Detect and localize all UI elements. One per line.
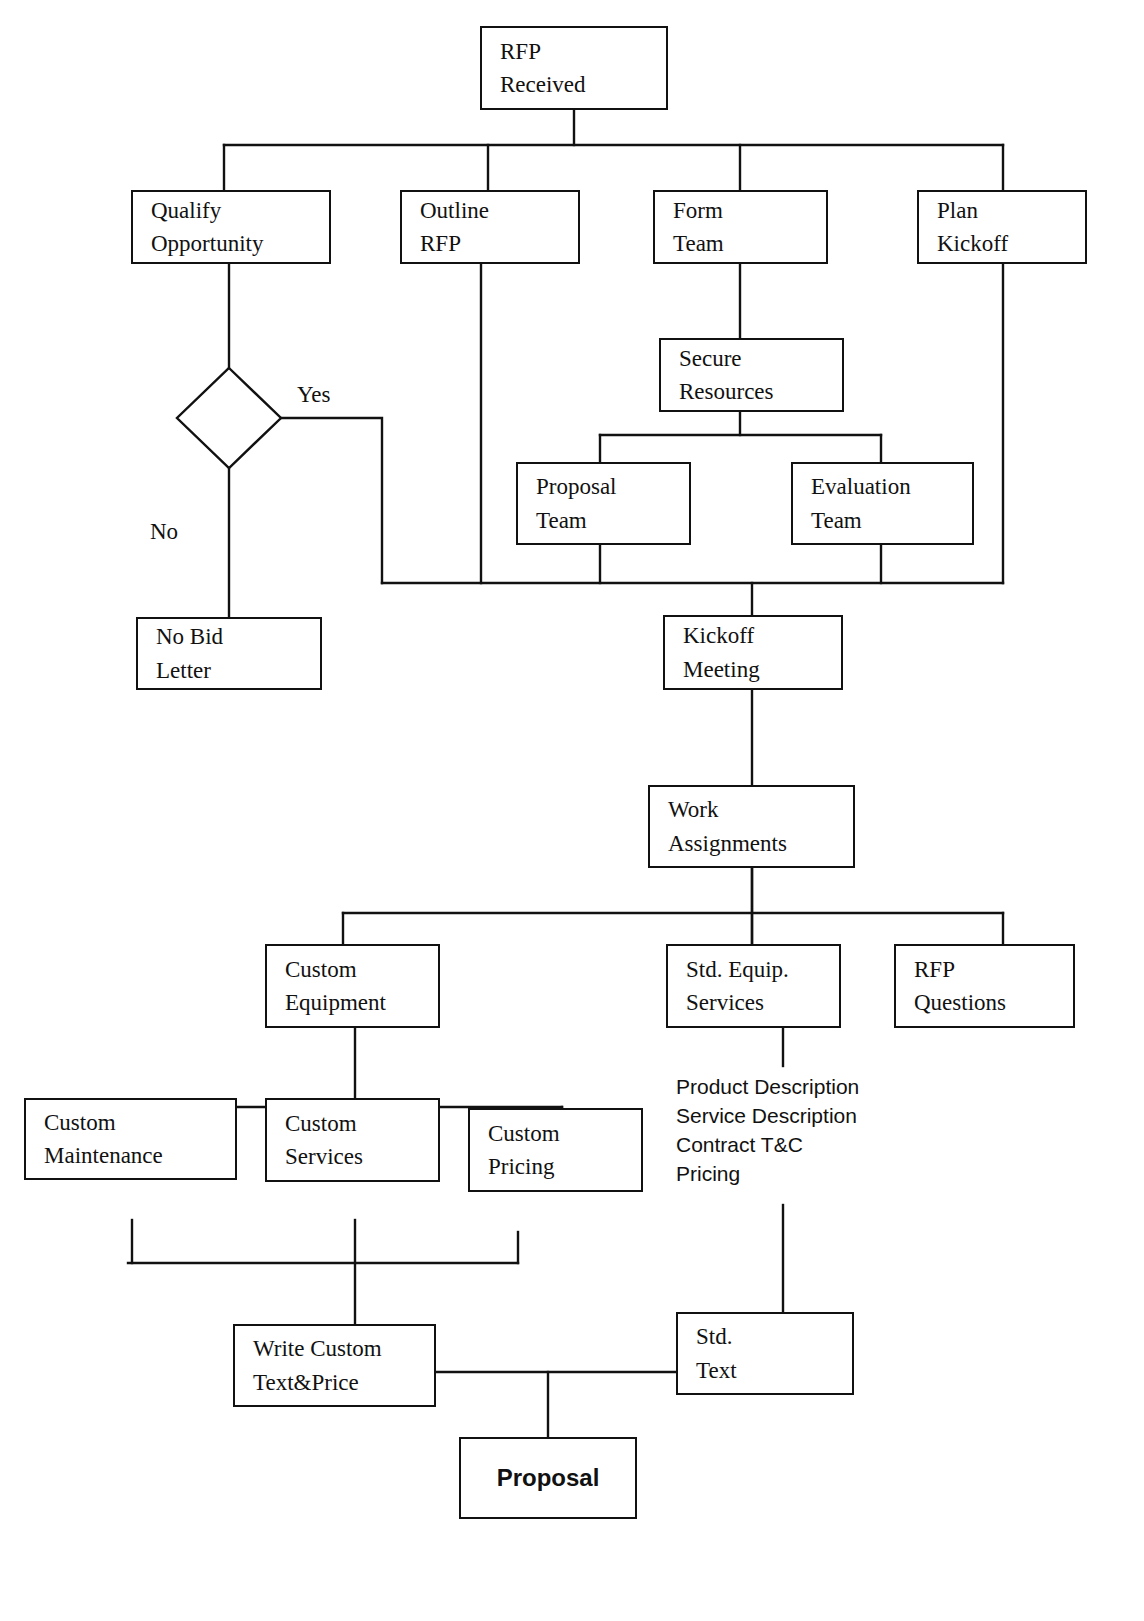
node-rfp-received[interactable]: RFP Received — [480, 26, 668, 110]
annotation-item-1: Service Description — [676, 1102, 859, 1131]
node-label-line2: Maintenance — [44, 1139, 235, 1172]
annotation-item-0: Product Description — [676, 1073, 859, 1102]
node-label-line1: Custom — [488, 1117, 641, 1150]
wire-yes-branch — [281, 418, 382, 583]
node-outline-rfp[interactable]: Outline RFP — [400, 190, 580, 264]
node-label-line1: Form — [673, 194, 826, 227]
node-custom-pricing[interactable]: Custom Pricing — [468, 1108, 643, 1192]
node-std-equip-services[interactable]: Std. Equip. Services — [666, 944, 841, 1028]
node-label-line2: Assignments — [668, 827, 853, 860]
node-label-line1: Proposal — [497, 1461, 600, 1496]
node-label-line2: Questions — [914, 986, 1073, 1019]
node-label-line2: Team — [811, 504, 972, 537]
annotation-item-3: Pricing — [676, 1160, 859, 1189]
node-label-line1: Outline — [420, 194, 578, 227]
node-no-bid-letter[interactable]: No Bid Letter — [136, 617, 322, 690]
node-label-line1: Std. Equip. — [686, 953, 839, 986]
node-label-line1: Secure — [679, 342, 842, 375]
node-secure-resources[interactable]: Secure Resources — [659, 338, 844, 412]
node-label-line1: Kickoff — [683, 619, 841, 652]
annotation-item-2: Contract T&C — [676, 1131, 859, 1160]
node-proposal[interactable]: Proposal — [459, 1437, 637, 1519]
node-label-line2: Resources — [679, 375, 842, 408]
node-label-line1: Custom — [44, 1106, 235, 1139]
node-plan-kickoff[interactable]: Plan Kickoff — [917, 190, 1087, 264]
node-qualify-opportunity[interactable]: Qualify Opportunity — [131, 190, 331, 264]
node-label-line2: Text — [696, 1354, 852, 1387]
node-label-line1: Plan — [937, 194, 1085, 227]
node-form-team[interactable]: Form Team — [653, 190, 828, 264]
node-kickoff-meeting[interactable]: Kickoff Meeting — [663, 615, 843, 690]
node-custom-services[interactable]: Custom Services — [265, 1098, 440, 1182]
node-label-line1: Evaluation — [811, 470, 972, 503]
node-label-line1: RFP — [914, 953, 1073, 986]
node-rfp-questions[interactable]: RFP Questions — [894, 944, 1075, 1028]
node-label-line2: Team — [536, 504, 689, 537]
node-label-line1: Proposal — [536, 470, 689, 503]
node-label-line1: RFP — [500, 35, 666, 68]
node-label-line1: Std. — [696, 1320, 852, 1353]
node-label-line2: Team — [673, 227, 826, 260]
node-label-line2: Kickoff — [937, 227, 1085, 260]
node-label-line1: Custom — [285, 953, 438, 986]
node-label-line2: Services — [686, 986, 839, 1019]
decision-diamond-shape — [177, 368, 281, 468]
node-label-line1: Custom — [285, 1107, 438, 1140]
node-label-line2: Meeting — [683, 653, 841, 686]
node-label-line2: Services — [285, 1140, 438, 1173]
node-custom-equipment[interactable]: Custom Equipment — [265, 944, 440, 1028]
node-work-assignments[interactable]: Work Assignments — [648, 785, 855, 868]
node-label-line1: Work — [668, 793, 853, 826]
node-label-line2: Text&Price — [253, 1366, 434, 1399]
node-custom-maintenance[interactable]: Custom Maintenance — [24, 1098, 237, 1180]
node-proposal-team[interactable]: Proposal Team — [516, 462, 691, 545]
node-label-line2: Received — [500, 68, 666, 101]
edge-label-no: No — [150, 519, 178, 545]
flowchart-canvas: RFP Received Qualify Opportunity Outline… — [0, 0, 1144, 1621]
node-label-line1: Qualify — [151, 194, 329, 227]
node-std-text[interactable]: Std. Text — [676, 1312, 854, 1395]
node-label-line1: No Bid — [156, 620, 320, 653]
node-label-line2: Opportunity — [151, 227, 329, 260]
node-write-custom-text-price[interactable]: Write Custom Text&Price — [233, 1324, 436, 1407]
node-label-line2: Letter — [156, 654, 320, 687]
node-evaluation-team[interactable]: Evaluation Team — [791, 462, 974, 545]
node-label-line2: Pricing — [488, 1150, 641, 1183]
std-equip-annotation-list: Product Description Service Description … — [676, 1073, 859, 1189]
node-label-line1: Write Custom — [253, 1332, 434, 1365]
edge-label-yes: Yes — [297, 382, 330, 408]
node-label-line2: RFP — [420, 227, 578, 260]
node-label-line2: Equipment — [285, 986, 438, 1019]
